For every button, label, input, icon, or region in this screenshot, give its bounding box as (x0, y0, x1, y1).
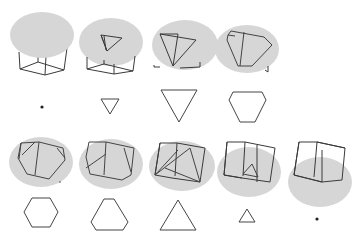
panel-2 (79, 18, 143, 114)
section-triangle (101, 99, 119, 114)
section-point (315, 217, 318, 220)
panel-8 (217, 142, 281, 222)
section-hexagon (229, 92, 266, 122)
panel-5 (9, 137, 73, 227)
panel-9 (288, 142, 352, 221)
panel-1 (10, 12, 74, 109)
section-hexagon (24, 198, 58, 227)
panel-6 (79, 139, 143, 230)
section-triangle (161, 90, 197, 122)
slicing-plane (10, 12, 74, 58)
panel-7 (149, 141, 215, 230)
slicing-plane (152, 20, 218, 70)
section-triangle (239, 209, 255, 222)
cube-section-diagram (0, 0, 361, 243)
diagram-canvas (0, 0, 361, 243)
slicing-plane (79, 18, 143, 66)
section-point (40, 105, 43, 108)
section-triangle (160, 200, 196, 230)
panel-3 (152, 20, 218, 122)
section-hexagon-truncated (91, 199, 128, 230)
cube-vertex (59, 181, 60, 182)
panel-4 (215, 25, 279, 122)
